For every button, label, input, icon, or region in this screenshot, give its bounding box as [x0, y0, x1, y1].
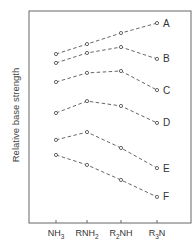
- data-point-marker: [85, 100, 88, 103]
- series-label: C: [163, 85, 170, 96]
- data-point-marker: [119, 178, 122, 181]
- data-point-marker: [119, 146, 122, 149]
- data-point-marker: [85, 51, 88, 54]
- series-line: [56, 155, 157, 197]
- series-label: F: [163, 191, 169, 202]
- data-point-marker: [54, 80, 57, 83]
- series-f: F: [54, 153, 169, 202]
- data-point-marker: [119, 45, 122, 48]
- series-label: B: [163, 53, 170, 64]
- x-tick-label: R3N: [149, 228, 166, 240]
- series-c: C: [54, 69, 170, 95]
- data-point-marker: [119, 69, 122, 72]
- series-label: E: [163, 163, 170, 174]
- series-line: [56, 47, 157, 63]
- data-point-marker: [119, 31, 122, 34]
- data-point-marker: [155, 166, 158, 169]
- data-point-marker: [85, 163, 88, 166]
- series-d: D: [54, 100, 170, 129]
- data-point-marker: [155, 195, 158, 198]
- series-label: D: [163, 117, 170, 128]
- x-tick-label: NH3: [48, 228, 65, 240]
- series-group: ABCDEF: [54, 18, 170, 203]
- series-line: [56, 71, 157, 90]
- series-line: [56, 101, 157, 123]
- series-b: B: [54, 45, 170, 64]
- data-point-marker: [85, 71, 88, 74]
- x-tick-label: R2NH: [109, 228, 132, 240]
- x-tick-label: RNH2: [75, 228, 99, 240]
- series-label: A: [163, 18, 170, 29]
- series-e: E: [54, 130, 170, 173]
- data-point-marker: [54, 153, 57, 156]
- series-line: [56, 132, 157, 168]
- data-point-marker: [155, 88, 158, 91]
- data-point-marker: [54, 138, 57, 141]
- data-point-marker: [54, 111, 57, 114]
- data-point-marker: [85, 130, 88, 133]
- data-point-marker: [54, 61, 57, 64]
- x-axis-labels: NH3RNH2R2NHR3N: [48, 228, 166, 240]
- data-point-marker: [54, 52, 57, 55]
- y-axis-label: Relative base strength: [10, 68, 21, 163]
- data-point-marker: [155, 57, 158, 60]
- series-line: [56, 23, 157, 54]
- data-point-marker: [85, 42, 88, 45]
- data-point-marker: [155, 21, 158, 24]
- data-point-marker: [155, 121, 158, 124]
- data-point-marker: [119, 104, 122, 107]
- chart: NH3RNH2R2NHR3N ABCDEF: [0, 0, 195, 244]
- series-a: A: [54, 18, 170, 56]
